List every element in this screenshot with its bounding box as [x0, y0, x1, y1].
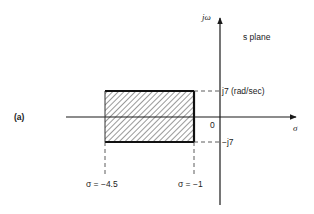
jomega-axis-label: jω: [202, 13, 211, 22]
lower-omega-label: −j7: [222, 138, 234, 147]
right-sigma-label: σ = −1: [178, 180, 203, 189]
s-plane-label: s plane: [243, 33, 270, 42]
sigma-axis-label: σ: [293, 124, 297, 133]
left-sigma-label: σ = −4.5: [86, 180, 118, 189]
origin-label: 0: [210, 121, 215, 130]
panel-label: (a): [14, 113, 24, 122]
upper-omega-label: j7 (rad/sec): [222, 87, 265, 96]
